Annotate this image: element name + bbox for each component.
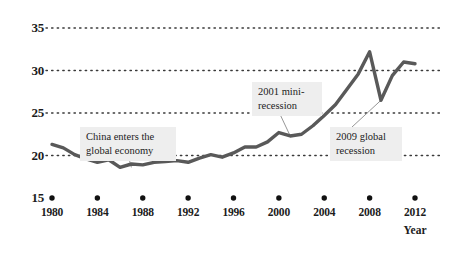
annotation-2001-mini-recession: 2001 mini- recession <box>252 82 322 116</box>
x-tick-label-2000: 2000 <box>256 206 302 218</box>
x-tick-label-1980: 1980 <box>29 206 75 218</box>
y-tick-label-30: 30 <box>18 63 44 79</box>
x-tick-label-1984: 1984 <box>74 206 120 218</box>
x-tick-marks <box>49 195 417 200</box>
y-tick-label-15: 15 <box>18 190 44 206</box>
x-tick-label-2004: 2004 <box>301 206 347 218</box>
x-axis-title: Year <box>392 224 438 236</box>
y-tick-label-35: 35 <box>18 20 44 36</box>
x-tick-label-2008: 2008 <box>347 206 393 218</box>
line-chart: 35 30 25 20 15 1980 1984 1988 1992 1996 … <box>0 0 452 256</box>
x-tick-label-1992: 1992 <box>165 206 211 218</box>
annotation-china-entry: China enters the global economy <box>80 127 176 161</box>
x-tick-label-1996: 1996 <box>211 206 257 218</box>
x-tick-label-2012: 2012 <box>392 206 438 218</box>
y-tick-label-25: 25 <box>18 105 44 121</box>
x-tick-label-1988: 1988 <box>120 206 166 218</box>
annotation-2009-global-recession: 2009 global recession <box>330 127 402 161</box>
y-tick-label-20: 20 <box>18 148 44 164</box>
